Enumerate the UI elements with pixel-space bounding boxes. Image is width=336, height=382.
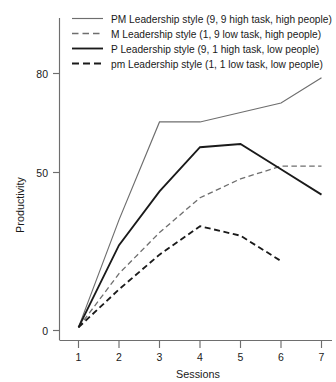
y-tick-label-0: 0 [42,325,48,337]
legend-label-P: P Leadership style (9, 1 high task, low … [111,44,319,55]
legend-entry-pm: pm Leadership style (1, 1 low task, low … [72,59,323,70]
legend-entry-M: M Leadership style (1, 9 low task, high … [72,29,321,40]
legend-label-PM: PM Leadership style (9, 9 high task, hig… [111,14,332,25]
legend-label-pm: pm Leadership style (1, 1 low task, low … [111,59,323,70]
x-tick-label-4: 4 [197,351,203,363]
x-tick-label-1: 1 [76,351,82,363]
series-line-PM [79,78,322,328]
chart-canvas: 0 50 80 Productivity 1 2 3 4 5 6 7 Sessi… [0,0,336,382]
series-line-M [79,166,322,327]
series-line-pm [79,226,282,327]
chart-legend: PM Leadership style (9, 9 high task, hig… [72,14,332,70]
y-tick-label-80: 80 [36,68,48,80]
legend-entry-PM: PM Leadership style (9, 9 high task, hig… [72,14,332,25]
productivity-line-chart: 0 50 80 Productivity 1 2 3 4 5 6 7 Sessi… [0,0,336,382]
x-axis-title: Sessions [176,368,220,380]
x-tick-label-3: 3 [157,351,163,363]
x-tick-label-6: 6 [278,351,284,363]
legend-label-M: M Leadership style (1, 9 low task, high … [111,29,321,40]
x-tick-label-2: 2 [116,351,122,363]
x-tick-label-7: 7 [319,351,325,363]
series-line-P [79,144,322,327]
y-axis-title: Productivity [14,177,26,233]
y-tick-label-50: 50 [36,167,48,179]
legend-entry-P: P Leadership style (9, 1 high task, low … [72,44,319,55]
x-tick-label-5: 5 [238,351,244,363]
series-group [79,78,322,328]
